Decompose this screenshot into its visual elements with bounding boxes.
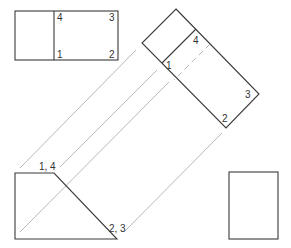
front-view-label-2-3: 2, 3 [109,223,126,234]
projection-line-b [60,70,157,167]
side-view [229,172,278,239]
top-view-label-1: 1 [57,49,63,60]
projection-line-d [124,133,222,232]
auxiliary-view-outline [142,9,259,128]
top-view-outline [15,11,118,60]
auxiliary-view-label-4: 4 [193,35,199,46]
projection-lines [20,50,222,232]
auxiliary-view: 4 1 3 2 [142,9,259,128]
auxiliary-view-label-2: 2 [222,113,228,124]
top-view: 4 3 1 2 [15,11,118,60]
auxiliary-view-label-3: 3 [245,89,251,100]
auxiliary-view-divider [162,29,196,63]
auxiliary-view-label-1: 1 [166,60,172,71]
side-view-outline [229,172,278,239]
top-view-label-3: 3 [109,12,115,23]
diagram-canvas: 4 3 1 2 4 1 3 2 1, 4 2, 3 [0,0,291,248]
top-view-label-2: 2 [109,49,115,60]
front-view: 1, 4 2, 3 [15,161,126,239]
top-view-label-4: 4 [57,12,63,23]
front-view-label-1-4: 1, 4 [39,161,56,172]
front-view-outline [15,173,117,239]
auxiliary-view-hidden-line [174,44,210,80]
